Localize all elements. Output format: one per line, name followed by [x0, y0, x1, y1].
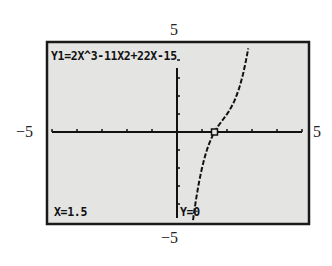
x-readout: X=1.5 — [54, 205, 87, 219]
function-title: Y1=2X^3-11X2+22X-15 — [51, 49, 177, 63]
calculator-graph: Y1=2X^3-11X2+22X-15 X=1.5 Y=0 — [0, 0, 332, 266]
y-readout: Y=0 — [180, 205, 200, 219]
trace-cursor — [212, 129, 218, 135]
